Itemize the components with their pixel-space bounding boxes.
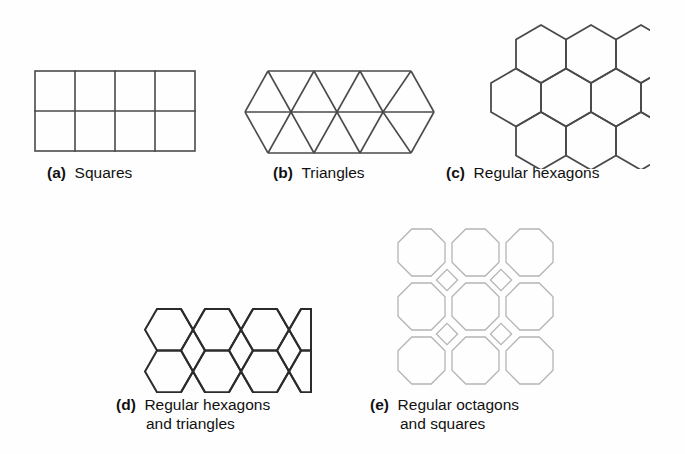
tessellation-figure-sheet: (a)Squares bbox=[0, 0, 685, 454]
caption-text-d-line2: and triangles bbox=[116, 414, 270, 433]
caption-text-e-line2: and squares bbox=[370, 414, 519, 433]
caption-hexagons-triangles: (d)Regular hexagons and triangles bbox=[116, 395, 270, 433]
caption-text-c: Regular hexagons bbox=[474, 164, 600, 181]
caption-triangles: (b)Triangles bbox=[273, 163, 365, 182]
caption-octagons-squares: (e)Regular octagons and squares bbox=[370, 395, 519, 433]
hexagons-tiling-diagram bbox=[482, 21, 650, 169]
caption-text-a: Squares bbox=[75, 164, 133, 181]
caption-text-e: Regular octagons bbox=[398, 396, 520, 413]
caption-tag-d: (d) bbox=[116, 396, 144, 413]
caption-tag-a: (a) bbox=[47, 164, 75, 181]
caption-text-b: Triangles bbox=[301, 164, 364, 181]
caption-hexagons: (c)Regular hexagons bbox=[446, 163, 599, 182]
caption-text-d: Regular hexagons bbox=[144, 396, 270, 413]
caption-tag-b: (b) bbox=[273, 164, 301, 181]
caption-tag-c: (c) bbox=[446, 164, 474, 181]
squares-tiling-diagram bbox=[34, 70, 199, 155]
caption-tag-e: (e) bbox=[370, 396, 398, 413]
caption-squares: (a)Squares bbox=[47, 163, 132, 182]
octagons-and-squares-tiling-diagram bbox=[393, 226, 563, 394]
triangles-tiling-diagram bbox=[242, 68, 437, 156]
hexagons-and-triangles-tiling-diagram bbox=[142, 305, 314, 393]
